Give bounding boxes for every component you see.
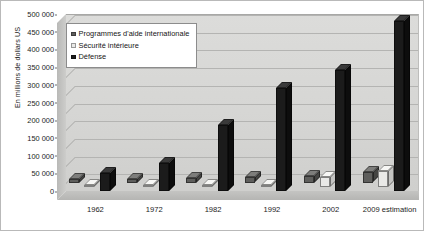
legend-item-defense: Défense [71, 51, 189, 63]
bar-security [320, 177, 330, 187]
bar-security [261, 185, 271, 187]
bar-front [143, 185, 153, 187]
bar-security [84, 185, 94, 187]
bar-front [394, 21, 404, 191]
bar-defense [394, 21, 404, 191]
bar-front [261, 185, 271, 187]
x-axis-tick: 1962 [87, 205, 104, 214]
y-axis-tick: 400 000 [27, 45, 54, 54]
x-axis-tick: 2009 estimation [363, 205, 417, 214]
plot-left-wall [57, 14, 66, 200]
legend-item-security: Sécurité intérieure [71, 40, 189, 52]
bar-front [69, 179, 79, 183]
y-axis-tick: 350 000 [27, 63, 54, 72]
bar-aid [127, 179, 137, 183]
bar-front [276, 88, 286, 191]
bar-defense [335, 70, 345, 191]
x-axis-tick: 1982 [205, 205, 222, 214]
bar-security [378, 171, 388, 187]
bar-side [169, 157, 175, 191]
bar-defense [218, 125, 228, 191]
bar-group [195, 14, 228, 191]
bar-aid [245, 177, 255, 182]
legend-swatch-defense [71, 55, 76, 60]
y-axis-tick-labels: 500 000450 000400 000350 000300 000250 0… [15, 14, 57, 200]
bar-security [143, 185, 153, 187]
legend-swatch-security [71, 43, 76, 48]
bar-aid [304, 176, 314, 183]
x-axis-tick: 1992 [263, 205, 280, 214]
y-axis-tick: 200 000 [27, 116, 54, 125]
bar-side [345, 64, 351, 191]
bar-aid [186, 178, 196, 183]
bar-front [127, 179, 137, 183]
bar-front [378, 171, 388, 187]
bar-side [228, 119, 234, 191]
bar-aid [69, 179, 79, 183]
bar-group [312, 14, 345, 191]
bar-group [371, 14, 404, 191]
bar-front [320, 177, 330, 187]
y-axis-tick: 0 [50, 187, 54, 196]
chart-legend: Programmes d'aide internationale Sécurit… [66, 23, 197, 68]
legend-label-aid: Programmes d'aide internationale [79, 29, 190, 38]
bar-security [202, 185, 212, 187]
y-axis-tick: 250 000 [27, 98, 54, 107]
plot-floor [57, 191, 419, 200]
bar-front [186, 178, 196, 183]
legend-label-security: Sécurité intérieure [79, 41, 139, 50]
bar-front [245, 177, 255, 182]
legend-swatch-aid [71, 32, 76, 37]
bar-defense [276, 88, 286, 191]
legend-label-defense: Défense [79, 52, 107, 61]
bar-front [84, 185, 94, 187]
y-axis-tick: 150 000 [27, 133, 54, 142]
bar-front [335, 70, 345, 191]
bar-front [159, 163, 169, 191]
bar-front [218, 125, 228, 191]
bar-side [404, 15, 410, 191]
bar-front [304, 176, 314, 183]
x-axis-tick: 1972 [146, 205, 163, 214]
bar-defense [100, 173, 110, 191]
y-axis-tick: 300 000 [27, 80, 54, 89]
y-axis-tick: 500 000 [27, 10, 54, 19]
bar-front [202, 185, 212, 187]
x-axis-tick: 2002 [322, 205, 339, 214]
bar-aid [363, 172, 373, 182]
bar-front [100, 173, 110, 191]
y-axis-tick: 50 000 [31, 169, 54, 178]
y-axis-tick: 100 000 [27, 151, 54, 160]
bar-group [253, 14, 286, 191]
chart-image: En millions de dollars US 500 000450 000… [0, 0, 424, 231]
bar-defense [159, 163, 169, 191]
bar-front [363, 172, 373, 182]
legend-item-aid: Programmes d'aide internationale [71, 28, 189, 40]
y-axis-tick: 450 000 [27, 27, 54, 36]
x-axis-tick-labels: 196219721982199220022009 estimation [57, 205, 419, 219]
bar-side [286, 82, 292, 191]
